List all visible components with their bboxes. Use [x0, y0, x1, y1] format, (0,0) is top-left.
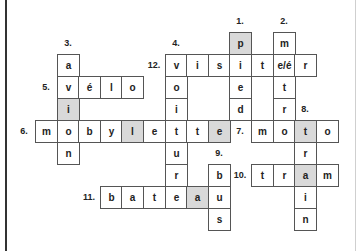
- grid-cell[interactable]: s: [208, 54, 231, 77]
- grid-cell[interactable]: e: [165, 186, 188, 209]
- grid-cell[interactable]: e/é: [273, 54, 296, 77]
- clue-number: 6.: [13, 120, 35, 142]
- grid-cell[interactable]: a: [186, 186, 209, 209]
- grid-cell[interactable]: b: [208, 164, 231, 187]
- grid-cell[interactable]: y: [100, 120, 123, 143]
- grid-cell[interactable]: i: [186, 54, 209, 77]
- grid-cell[interactable]: e: [229, 76, 252, 99]
- grid-cell[interactable]: a: [294, 164, 317, 187]
- clue-number: 10.: [229, 164, 251, 186]
- grid-cell[interactable]: u: [165, 142, 188, 165]
- grid-cell[interactable]: o: [273, 120, 296, 143]
- grid-cell[interactable]: b: [78, 120, 101, 143]
- clue-number: 8.: [294, 98, 316, 120]
- grid-cell[interactable]: o: [121, 76, 144, 99]
- grid-cell[interactable]: i: [229, 54, 252, 77]
- grid-cell[interactable]: a: [57, 54, 80, 77]
- grid-cell[interactable]: n: [294, 208, 317, 231]
- grid-cell[interactable]: m: [273, 32, 296, 55]
- grid-cell[interactable]: o: [165, 76, 188, 99]
- grid-cell[interactable]: e: [143, 120, 166, 143]
- grid-cell[interactable]: m: [251, 120, 274, 143]
- grid-cell[interactable]: s: [208, 208, 231, 231]
- grid-cell[interactable]: r: [273, 164, 296, 187]
- grid-cell[interactable]: n: [57, 142, 80, 165]
- grid-cell[interactable]: m: [316, 164, 339, 187]
- clue-number: 4.: [165, 32, 187, 54]
- grid-cell[interactable]: l: [100, 76, 123, 99]
- grid-cell[interactable]: i: [165, 98, 188, 121]
- clue-number: 3.: [57, 32, 79, 54]
- grid-cell[interactable]: t: [143, 186, 166, 209]
- grid-cell[interactable]: é: [78, 76, 101, 99]
- grid-cell[interactable]: l: [121, 120, 144, 143]
- grid-cell[interactable]: o: [316, 120, 339, 143]
- grid-cell[interactable]: t: [294, 120, 317, 143]
- grid-cell[interactable]: a: [121, 186, 144, 209]
- grid-cell[interactable]: r: [165, 164, 188, 187]
- grid-cell[interactable]: t: [251, 54, 274, 77]
- grid-cell[interactable]: t: [273, 76, 296, 99]
- clue-number: 12.: [143, 54, 165, 76]
- clue-number: 11.: [78, 186, 100, 208]
- grid-cell[interactable]: r: [273, 98, 296, 121]
- grid-cell[interactable]: m: [35, 120, 58, 143]
- grid-cell[interactable]: e: [208, 120, 231, 143]
- grid-cell[interactable]: b: [100, 186, 123, 209]
- grid-cell[interactable]: t: [186, 120, 209, 143]
- clue-number: 1.: [229, 10, 251, 32]
- crossword-grid: pmavisite/érvélooetiidrmobylettemotonurr…: [0, 0, 359, 251]
- grid-cell[interactable]: r: [294, 54, 317, 77]
- grid-cell[interactable]: i: [57, 98, 80, 121]
- grid-cell[interactable]: v: [165, 54, 188, 77]
- grid-cell[interactable]: p: [229, 32, 252, 55]
- grid-cell[interactable]: o: [57, 120, 80, 143]
- grid-cell[interactable]: v: [57, 76, 80, 99]
- clue-number: 9.: [208, 142, 230, 164]
- clue-number: 7.: [229, 120, 251, 142]
- grid-cell[interactable]: t: [251, 164, 274, 187]
- clue-number: 2.: [273, 10, 295, 32]
- clue-number: 5.: [35, 76, 57, 98]
- grid-cell[interactable]: d: [229, 98, 252, 121]
- grid-cell[interactable]: u: [208, 186, 231, 209]
- grid-cell[interactable]: r: [294, 142, 317, 165]
- grid-cell[interactable]: i: [294, 186, 317, 209]
- grid-cell[interactable]: t: [165, 120, 188, 143]
